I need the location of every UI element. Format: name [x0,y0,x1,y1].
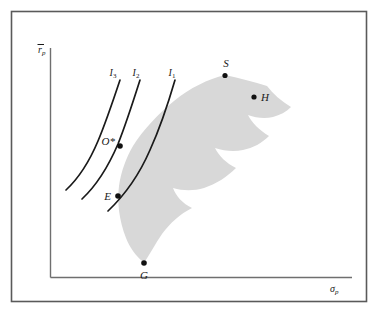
point-label-e: E [103,190,111,202]
curve-label-i2: I2 [132,67,140,80]
point-marker-g [141,260,147,266]
opportunity-set-region [118,75,291,263]
point-label-h: H [260,91,270,103]
point-label-ostar: O* [102,135,116,147]
x-axis-label: σp [330,283,339,296]
curve-label-i1: I1 [168,67,176,80]
point-label-g: G [140,269,148,281]
curve-label-i3: I3 [109,67,117,80]
svg-text:rp: rp [38,44,46,57]
point-marker-ostar [117,143,123,149]
y-axis-label: rp [38,44,46,57]
point-label-s: S [223,57,229,69]
point-marker-h [251,94,256,99]
figure-root: I3 I2 I1 S H O* E G rp σp [0,0,378,315]
diagram-canvas: I3 I2 I1 S H O* E G rp σp [0,0,378,315]
point-marker-e [115,193,121,199]
point-marker-s [222,73,227,78]
